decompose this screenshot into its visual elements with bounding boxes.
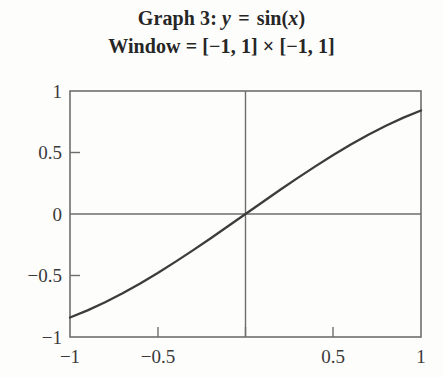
x-tick-label-1: 1 (416, 346, 426, 367)
y-tick-label-neg1: −1 (42, 327, 62, 348)
x-tick-label-neg1: −1 (60, 346, 80, 367)
figure: Graph 3: y = sin(x) Window = [−1, 1] × [… (0, 0, 443, 377)
y-tick-label-0.5: 0.5 (38, 142, 62, 163)
plot-area: 1 0.5 0 −0.5 −1 −1 −0.5 0.5 1 (0, 0, 443, 377)
y-tick-label-neg0.5: −0.5 (28, 265, 62, 286)
y-tick-label-0: 0 (53, 204, 63, 225)
y-tick-label-1: 1 (53, 81, 63, 102)
x-tick-label-neg0.5: −0.5 (141, 346, 175, 367)
x-tick-label-0.5: 0.5 (321, 346, 345, 367)
